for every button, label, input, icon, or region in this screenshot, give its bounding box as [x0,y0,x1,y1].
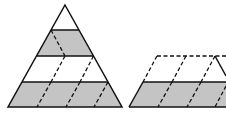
trapezoid-figure [129,56,226,107]
triangle-shaded-strip-bottom [8,82,122,107]
trapezoid-solid-diagonal [215,56,226,76]
diagram-canvas [0,0,226,118]
trapezoid-shaded-strip [129,82,226,107]
triangle-figure [8,5,122,107]
triangle-shaded-strip-upper [37,30,94,56]
